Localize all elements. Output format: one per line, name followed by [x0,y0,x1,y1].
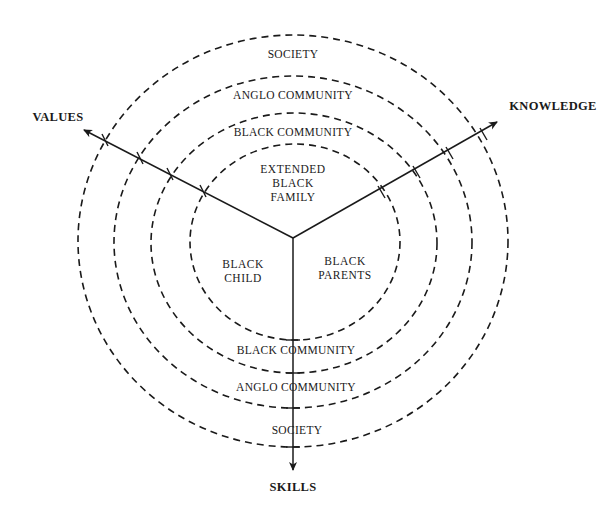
sector-extended-black-family: EXTENDED BLACK FAMILY [260,163,325,203]
ring-label-society-top: SOCIETY [268,48,319,60]
sector-black-parents: BLACK PARENTS [318,255,372,281]
ring-label-anglo-community-bottom: ANGLO COMMUNITY [236,381,356,393]
sector-left-line1: BLACK [222,258,264,270]
knowledge-axis-arrow [293,122,497,238]
sector-top-line1: EXTENDED [260,163,325,175]
values-label: VALUES [33,110,84,124]
sector-right-line1: BLACK [324,255,366,267]
sector-right-line2: PARENTS [318,269,372,281]
ring-label-society-bottom: SOCIETY [272,424,323,436]
skills-label: SKILLS [270,480,317,494]
sector-left-line2: CHILD [224,272,262,284]
sector-top-line2: BLACK [272,177,314,189]
sector-black-child: BLACK CHILD [222,258,264,284]
ring-label-anglo-community-top: ANGLO COMMUNITY [233,89,353,101]
values-axis-arrow [84,130,293,238]
ring-label-black-community-top: BLACK COMMUNITY [234,126,353,138]
ring-black-community [151,113,437,373]
ring-label-black-community-bottom: BLACK COMMUNITY [237,344,356,356]
sector-top-line3: FAMILY [270,191,315,203]
concentric-diagram: VALUES KNOWLEDGE SKILLS SOCIETY ANGLO CO… [0,0,615,509]
knowledge-label: KNOWLEDGE [509,99,596,113]
